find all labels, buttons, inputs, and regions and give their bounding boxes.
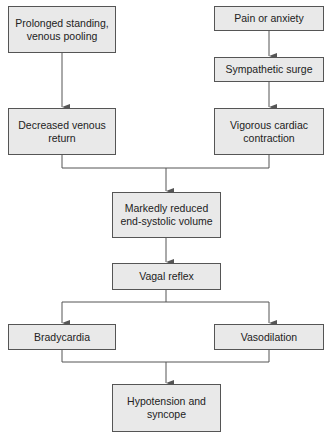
node-label: Decreased venous return	[13, 119, 111, 145]
node-label: Sympathetic surge	[226, 63, 313, 76]
node-label: Vagal reflex	[139, 270, 194, 283]
node-sympathetic-surge: Sympathetic surge	[214, 57, 324, 82]
node-decreased-venous-return: Decreased venous return	[8, 108, 116, 155]
node-reduced-esv: Markedly reduced end-systolic volume	[112, 192, 221, 238]
node-label: Hypotension and syncope	[117, 395, 216, 421]
node-label: Vigorous cardiac contraction	[219, 119, 319, 145]
node-label: Vasodilation	[241, 331, 297, 344]
node-vigorous-contraction: Vigorous cardiac contraction	[214, 108, 324, 155]
node-vagal-reflex: Vagal reflex	[112, 263, 221, 290]
node-label: Pain or anxiety	[234, 12, 303, 25]
node-vasodilation: Vasodilation	[214, 324, 324, 350]
node-bradycardia: Bradycardia	[8, 324, 116, 350]
merge-line-bottom	[62, 350, 269, 362]
node-label: Prolonged standing, venous pooling	[13, 17, 111, 43]
node-prolonged-standing: Prolonged standing, venous pooling	[8, 6, 116, 53]
node-label: Bradycardia	[34, 331, 90, 344]
node-label: Markedly reduced end-systolic volume	[117, 202, 216, 228]
merge-line-top	[62, 155, 269, 168]
node-hypotension-syncope: Hypotension and syncope	[112, 384, 221, 432]
node-pain-anxiety: Pain or anxiety	[214, 6, 324, 31]
